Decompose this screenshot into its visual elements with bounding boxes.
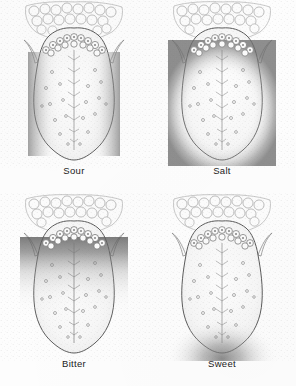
tongue-diagram-sweet: [148, 193, 296, 361]
taste-regions-figure: Sour: [0, 0, 296, 386]
taste-zone-shading-sour-right: [86, 52, 120, 156]
panel-bitter: Bitter: [0, 193, 148, 386]
tongue-diagram-salt: [148, 0, 296, 168]
panel-sour: Sour: [0, 0, 148, 193]
panel-sweet: Sweet: [148, 193, 296, 386]
tongue-diagram-bitter: [0, 193, 148, 361]
panel-salt: Salt: [148, 0, 296, 193]
taste-zone-shading-sour-left: [28, 52, 62, 156]
tongue-diagram-sour: [0, 0, 148, 168]
